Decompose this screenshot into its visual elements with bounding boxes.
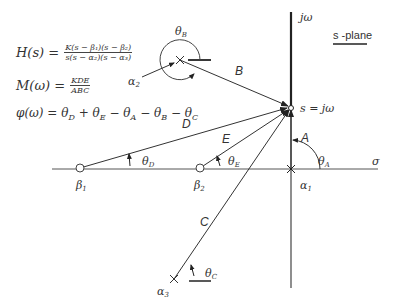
vector-e	[200, 110, 288, 168]
pole-alpha3	[170, 275, 178, 283]
pole-alpha2	[176, 56, 184, 64]
pole-alpha2-label: α2	[128, 75, 140, 89]
alpha2-incoming-arrow	[142, 63, 174, 77]
imaginary-axis-label: jω	[297, 11, 312, 24]
theta-e-arrow	[217, 156, 220, 166]
theta-e-label: θE	[228, 155, 240, 169]
theta-d-label: θD	[142, 155, 155, 169]
real-axis-label: σ	[372, 155, 380, 168]
s-plane-diagram: jω σ s -plane s = jω A B C D E β1 β2 α1 …	[0, 0, 394, 307]
vector-b	[180, 60, 288, 106]
theta-d-arrow	[129, 154, 130, 166]
pole-alpha1-label: α1	[300, 179, 312, 193]
pole-alpha3-label: α3	[157, 285, 169, 299]
s-plane-label: s -plane	[333, 29, 372, 41]
zero-beta1	[76, 164, 84, 172]
theta-c-arrow	[191, 265, 194, 276]
test-point-label: s = jω	[300, 102, 334, 115]
zero-beta2-label: β2	[193, 179, 205, 193]
vector-e-label: E	[222, 132, 231, 146]
test-point	[289, 106, 294, 111]
theta-c-label: θC	[205, 267, 218, 281]
theta-b-label: θB	[175, 25, 187, 39]
vector-b-label: B	[235, 64, 243, 78]
zero-beta2	[196, 164, 204, 172]
theta-a-label: θA	[318, 155, 330, 169]
zero-beta1-label: β1	[75, 179, 87, 193]
theta-a-arc	[293, 140, 320, 169]
vector-d-label: D	[182, 117, 191, 131]
vector-c-label: C	[200, 215, 209, 229]
